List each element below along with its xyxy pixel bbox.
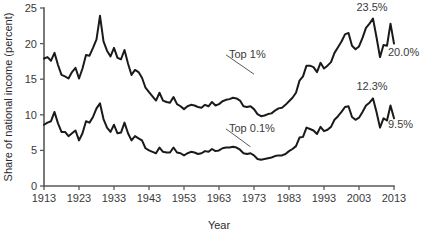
top1-series-label-label: Top 1%	[229, 48, 266, 60]
x-axis-tick-label: 1943	[137, 192, 161, 204]
annotations: 23.5%20.0%12.3%9.5%Top 1%Top 0.1%	[226, 1, 419, 147]
y-axis-tick-label: 10	[25, 109, 37, 121]
x-axis-tick-label: 2013	[382, 192, 406, 204]
x-axis-tick-label: 1963	[207, 192, 231, 204]
x-axis-tick-label: 2003	[347, 192, 371, 204]
income-share-line-chart: 0510152025 19131923193319431953196319731…	[0, 0, 422, 233]
top1-end-label: 20.0%	[388, 46, 419, 58]
x-axis-tick-label: 1983	[277, 192, 301, 204]
y-axis-tick-label: 25	[25, 2, 37, 14]
x-axis: 1913192319331943195319631973198319932003…	[32, 186, 406, 204]
x-axis-tick-label: 1933	[102, 192, 126, 204]
top1-peak-label: 23.5%	[356, 1, 387, 13]
series-lines	[44, 16, 394, 160]
y-axis: 0510152025	[25, 2, 44, 192]
y-axis-tick-label: 0	[31, 180, 37, 192]
chart-figure: 0510152025 19131923193319431953196319731…	[0, 0, 422, 233]
top01-end-label: 9.5%	[388, 118, 413, 130]
series-line-top-1	[44, 16, 394, 116]
x-axis-tick-label: 1973	[242, 192, 266, 204]
x-axis-tick-label: 1993	[312, 192, 336, 204]
top01-series-label-label: Top 0.1%	[229, 122, 275, 134]
y-axis-tick-label: 5	[31, 144, 37, 156]
y-axis-tick-label: 20	[25, 38, 37, 50]
y-axis-tick-label: 15	[25, 73, 37, 85]
top01-peak-label: 12.3%	[356, 80, 387, 92]
x-axis-tick-label: 1923	[67, 192, 91, 204]
series-line-top-0-1	[44, 98, 394, 159]
y-axis-title: Share of national income (percent)	[2, 13, 14, 182]
x-axis-tick-label: 1913	[32, 192, 56, 204]
x-axis-tick-label: 1953	[172, 192, 196, 204]
x-axis-title: Year	[208, 219, 231, 231]
